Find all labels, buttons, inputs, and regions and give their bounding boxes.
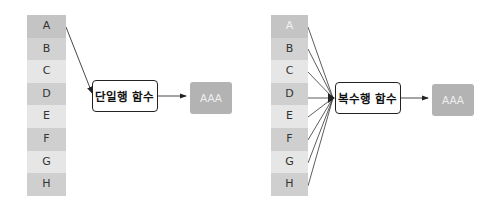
left-row-column: A B C D E F G H — [27, 15, 66, 196]
row-cell: A — [27, 15, 66, 38]
row-cell: H — [27, 173, 66, 196]
connector-lines — [0, 0, 499, 209]
row-cell: D — [27, 83, 66, 106]
row-cell: C — [27, 60, 66, 83]
right-row-column: A B C D E F G H — [271, 15, 308, 196]
right-result-box: AAA — [432, 84, 474, 116]
row-cell: G — [271, 151, 308, 174]
row-cell: G — [27, 151, 66, 174]
row-cell: A — [271, 15, 308, 38]
left-result-box: AAA — [190, 82, 232, 114]
row-cell: H — [271, 173, 308, 196]
row-cell: E — [27, 105, 66, 128]
row-cell: D — [271, 83, 308, 106]
row-cell: B — [271, 38, 308, 61]
row-cell: E — [271, 105, 308, 128]
single-row-function-box: 단일행 함수 — [92, 80, 158, 112]
row-cell: F — [271, 128, 308, 151]
row-cell: F — [27, 128, 66, 151]
row-cell: C — [271, 60, 308, 83]
row-cell: B — [27, 38, 66, 61]
multi-row-function-box: 복수행 함수 — [335, 82, 401, 114]
